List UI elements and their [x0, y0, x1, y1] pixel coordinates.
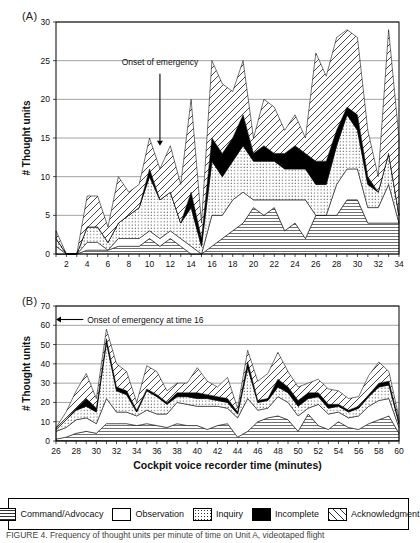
swatch-acknowledgment — [328, 508, 347, 521]
x-tick-label: 38 — [172, 446, 182, 456]
y-tick-label: 50 — [41, 340, 51, 350]
legend-label: Incomplete — [275, 509, 319, 519]
swatch-inquiry — [193, 508, 212, 521]
panel-b-plot: 2628303234363840424446485052545658600102… — [0, 288, 417, 493]
x-tick-label: 50 — [293, 446, 303, 456]
x-tick-label: 58 — [374, 446, 384, 456]
y-tick-label: 25 — [41, 56, 51, 66]
x-tick-label: 28 — [71, 446, 81, 456]
x-tick-label: 14 — [186, 259, 196, 269]
legend-item-command-advocacy: Command/Advocacy — [0, 508, 103, 521]
figure-caption: FIGURE 4. Frequency of thought units per… — [6, 530, 417, 540]
swatch-command-advocacy — [0, 508, 16, 521]
legend: Command/AdvocacyObservationInquiryIncomp… — [8, 498, 409, 530]
x-tick-label: 8 — [126, 259, 131, 269]
annotation-text: Onset of emergency at time 16 — [87, 315, 203, 325]
x-tick-label: 32 — [373, 259, 383, 269]
x-tick-label: 24 — [290, 259, 300, 269]
y-tick-label: 40 — [41, 359, 51, 369]
legend-item-observation: Observation — [112, 508, 184, 521]
swatch-observation — [112, 508, 131, 521]
panel-a-plot: 2468101214161820222426283032340510152025… — [0, 0, 417, 288]
x-tick-label: 6 — [106, 259, 111, 269]
annotation-text: Onset of emergency — [122, 57, 199, 67]
x-tick-label: 54 — [334, 446, 344, 456]
y-axis-title: # Thought units — [21, 336, 32, 411]
x-tick-label: 12 — [166, 259, 176, 269]
x-axis-title: Cockpit voice recorder time (minutes) — [133, 459, 321, 471]
x-tick-label: 44 — [233, 446, 243, 456]
legend-item-acknowledgment: Acknowledgment — [328, 508, 420, 521]
x-tick-label: 36 — [152, 446, 162, 456]
panel-a: (A) 246810121416182022242628303234051015… — [0, 0, 417, 288]
y-tick-labels: 010203040506070 — [41, 301, 51, 446]
y-tick-label: 20 — [41, 397, 51, 407]
x-tick-label: 30 — [353, 259, 363, 269]
y-tick-labels: 051015202530 — [41, 17, 51, 259]
legend-item-inquiry: Inquiry — [193, 508, 243, 521]
x-tick-labels: 246810121416182022242628303234 — [64, 259, 404, 269]
y-tick-label: 30 — [41, 17, 51, 27]
legend-label: Command/Advocacy — [20, 509, 103, 519]
x-tick-label: 32 — [112, 446, 122, 456]
x-tick-label: 60 — [394, 446, 404, 456]
x-tick-label: 48 — [273, 446, 283, 456]
x-tick-label: 16 — [207, 259, 217, 269]
y-tick-label: 0 — [45, 249, 50, 259]
y-tick-label: 0 — [45, 436, 50, 446]
x-tick-label: 26 — [51, 446, 61, 456]
panel-b: (B) 262830323436384042444648505254565860… — [0, 288, 417, 488]
y-tick-label: 10 — [41, 417, 51, 427]
y-tick-label: 5 — [45, 210, 50, 220]
y-tick-label: 15 — [41, 133, 51, 143]
legend-label: Inquiry — [216, 509, 243, 519]
legend-item-incomplete: Incomplete — [252, 508, 319, 521]
x-tick-label: 10 — [145, 259, 155, 269]
y-tick-label: 60 — [41, 320, 51, 330]
x-tick-label: 34 — [132, 446, 142, 456]
y-tick-label: 70 — [41, 301, 51, 311]
legend-label: Observation — [135, 509, 184, 519]
legend-label: Acknowledgment — [351, 509, 420, 519]
x-tick-label: 28 — [332, 259, 342, 269]
x-tick-label: 18 — [228, 259, 238, 269]
x-tick-labels: 262830323436384042444648505254565860 — [51, 446, 404, 456]
x-tick-label: 46 — [253, 446, 263, 456]
swatch-incomplete — [252, 508, 271, 521]
x-tick-label: 40 — [193, 446, 203, 456]
x-tick-label: 26 — [311, 259, 321, 269]
x-tick-label: 4 — [85, 259, 90, 269]
x-tick-label: 52 — [314, 446, 324, 456]
y-axis-title: # Thought units — [21, 100, 32, 175]
x-tick-label: 30 — [92, 446, 102, 456]
y-tick-label: 10 — [41, 172, 51, 182]
x-tick-label: 42 — [213, 446, 223, 456]
x-tick-label: 2 — [64, 259, 69, 269]
x-tick-label: 34 — [394, 259, 404, 269]
x-tick-label: 20 — [249, 259, 259, 269]
y-tick-label: 20 — [41, 94, 51, 104]
y-tick-label: 30 — [41, 378, 51, 388]
x-tick-label: 56 — [354, 446, 364, 456]
x-tick-label: 22 — [270, 259, 280, 269]
